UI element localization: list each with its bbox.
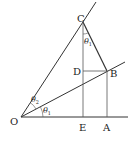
arc-angle-C — [83, 33, 88, 34]
segment-CB — [83, 22, 107, 71]
label-A: A — [102, 122, 111, 133]
label-D: D — [73, 66, 81, 77]
label-O: O — [10, 116, 18, 127]
label-E: E — [79, 122, 86, 133]
angle-label-theta1-O: θ1 — [43, 106, 51, 116]
label-C: C — [77, 13, 85, 24]
geometry-diagram: C D B O E A θ2 θ1 θ1 — [0, 0, 138, 144]
angle-label-theta2-O: θ2 — [31, 95, 39, 105]
label-B: B — [110, 68, 117, 79]
